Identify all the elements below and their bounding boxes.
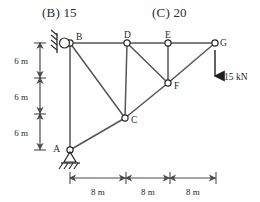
truss-members	[70, 43, 215, 150]
member-D-C	[125, 43, 127, 118]
member-B-C	[70, 43, 125, 118]
vertical-dimension-chain	[34, 43, 46, 150]
node-label-B: B	[76, 32, 82, 42]
support-B-hatching	[51, 30, 57, 50]
node-label-F: F	[174, 81, 179, 91]
vertical-dim-label-1: 6 m	[14, 56, 28, 66]
horizontal-dimension-chain	[70, 172, 216, 184]
truss-diagram-svg: A B C D E F G 15 kN 6 m 6 m 6 m	[0, 0, 260, 202]
horizontal-dim-label-1: 8 m	[91, 187, 105, 197]
joint-D	[124, 40, 130, 46]
member-F-G	[168, 43, 215, 83]
node-label-E: E	[165, 30, 171, 40]
node-label-A: A	[53, 144, 60, 154]
node-label-C: C	[131, 115, 137, 125]
vertical-dim-label-3: 6 m	[14, 128, 28, 138]
truss-joints	[67, 40, 218, 153]
member-C-F	[125, 83, 168, 118]
joint-F	[165, 80, 171, 86]
joint-E	[165, 40, 171, 46]
node-label-D: D	[124, 30, 131, 40]
node-label-G: G	[220, 38, 227, 48]
member-A-C	[70, 118, 125, 150]
horizontal-dim-label-2: 8 m	[141, 187, 155, 197]
support-A	[59, 152, 80, 169]
support-B	[51, 30, 70, 53]
figure-container: (B) 15 (C) 20	[0, 0, 260, 202]
support-A-hatching	[59, 163, 78, 169]
vertical-dim-label-2: 6 m	[14, 92, 28, 102]
joint-C	[122, 115, 128, 121]
member-D-F	[127, 43, 168, 83]
horizontal-dim-label-3: 8 m	[186, 187, 200, 197]
load-label: 15 kN	[224, 72, 248, 82]
support-B-pin-circle	[60, 38, 70, 48]
joint-G	[212, 40, 218, 46]
